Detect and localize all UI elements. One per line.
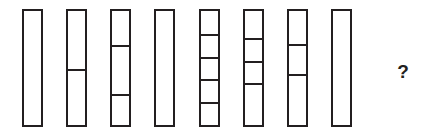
bar-5 [199,9,220,127]
bar-4 [154,9,175,127]
bar-5-divider-1 [201,34,218,36]
bar-3-divider-1 [112,45,129,47]
bar-3 [110,9,131,127]
bar-5-divider-2 [201,57,218,59]
puzzle-canvas: ? [0,0,430,138]
bar-7 [287,9,308,127]
bar-6-divider-1 [245,38,262,40]
bar-3-divider-2 [112,94,129,96]
bar-1 [22,9,43,127]
answer-placeholder-question-mark: ? [394,62,412,84]
bar-6-divider-3 [245,83,262,85]
bar-2 [66,9,87,127]
bar-5-divider-3 [201,79,218,81]
bar-8 [331,9,352,127]
bar-6-divider-2 [245,61,262,63]
bar-2-divider-1 [68,69,85,71]
bar-7-divider-2 [289,74,306,76]
bar-5-divider-4 [201,102,218,104]
bar-6 [243,9,264,127]
bar-7-divider-1 [289,44,306,46]
